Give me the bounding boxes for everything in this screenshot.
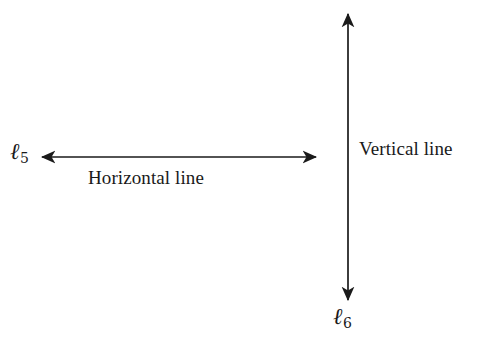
vertical-line-subscript: 6	[343, 315, 352, 331]
horizontal-line-caption: Horizontal line	[88, 167, 204, 189]
vertical-line-label: ℓ6	[333, 303, 352, 331]
geometry-diagram-svg	[0, 0, 487, 346]
figure-canvas: Horizontal line Vertical line ℓ5 ℓ6	[0, 0, 487, 346]
vertical-line-caption: Vertical line	[359, 138, 453, 160]
horizontal-line-label: ℓ5	[10, 138, 29, 166]
horizontal-line-symbol: ℓ	[10, 138, 20, 164]
horizontal-line-subscript: 5	[20, 150, 29, 166]
vertical-line-symbol: ℓ	[333, 303, 343, 329]
